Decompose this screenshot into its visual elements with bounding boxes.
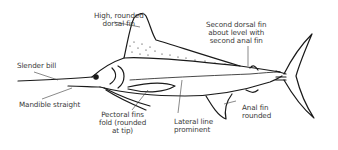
label-line: Mandible straight	[19, 101, 80, 109]
label-dorsal-fin: High, rounded dorsal fin	[94, 12, 144, 28]
label-second-dorsal-fin: Second dorsal fin about level with secon…	[206, 21, 266, 45]
sailfish-diagram: High, rounded dorsal fin Second dorsal f…	[0, 0, 338, 150]
label-lateral-line: Lateral line prominent	[174, 118, 213, 134]
body-bottom-outline	[100, 76, 282, 96]
label-pectoral-fins: Pectoral fins fold (rounded at tip)	[99, 111, 146, 135]
label-line: rounded	[242, 112, 271, 120]
label-line: Slender bill	[17, 62, 56, 70]
label-line: at tip)	[99, 127, 146, 135]
mandible-outline	[68, 86, 100, 87]
eye	[94, 75, 98, 79]
anal-fin-outline	[206, 94, 232, 119]
caudal-fin-outline	[284, 34, 314, 118]
label-line: dorsal fin	[94, 20, 144, 28]
label-anal-fin: Anal fin rounded	[242, 104, 271, 120]
label-line: prominent	[174, 126, 213, 134]
lateral-line	[130, 72, 280, 80]
label-slender-bill: Slender bill	[17, 62, 56, 70]
label-line: second anal fin	[206, 37, 266, 45]
label-mandible: Mandible straight	[19, 101, 80, 109]
pectoral-fin-outline	[128, 83, 175, 92]
gill-outline	[118, 66, 124, 88]
sailfish-illustration	[0, 0, 338, 150]
